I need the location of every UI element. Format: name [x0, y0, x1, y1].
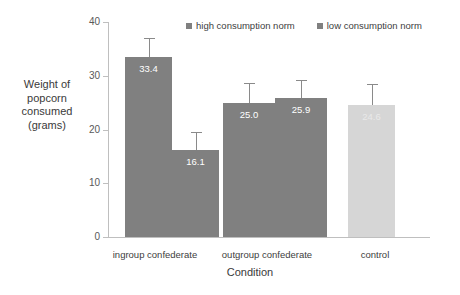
- bar: 25.9: [275, 98, 327, 237]
- bar-value-label: 25.0: [223, 109, 275, 120]
- bar-fill: [223, 103, 275, 237]
- bar: 25.0: [223, 103, 275, 237]
- bar: 24.6: [348, 105, 395, 237]
- x-axis-title: Condition: [0, 266, 460, 278]
- plot-area: 33.416.125.025.924.6: [108, 22, 430, 237]
- x-tick-label-ingroup-confederate: ingroup confederate: [100, 249, 210, 260]
- error-bar-stem: [301, 80, 302, 98]
- x-axis-line: [108, 237, 430, 238]
- bar-fill: [348, 105, 395, 237]
- y-tick-label-40: 40: [74, 17, 100, 27]
- bar: 16.1: [172, 150, 219, 237]
- error-bar-cap: [296, 80, 307, 81]
- bar-value-label: 33.4: [125, 63, 172, 74]
- bar-fill: [125, 57, 172, 237]
- x-tick-label-outgroup-confederate: outgroup confederate: [208, 249, 326, 260]
- bar-value-label: 16.1: [172, 156, 219, 167]
- bar-value-label: 25.9: [275, 104, 327, 115]
- y-axis-title-line: popcorn: [8, 92, 86, 106]
- y-tick-label-20: 20: [74, 125, 100, 135]
- bar-value-label: 24.6: [348, 111, 395, 122]
- error-bar-cap: [367, 84, 378, 85]
- error-bar-stem: [149, 38, 150, 58]
- x-tick-label-control: control: [330, 249, 420, 260]
- error-bar-cap: [191, 132, 202, 133]
- bar: 33.4: [125, 57, 172, 237]
- error-bar-cap: [244, 83, 255, 84]
- bar-fill: [275, 98, 327, 237]
- error-bar-stem: [196, 132, 197, 151]
- error-bar-stem: [372, 84, 373, 105]
- y-tick-label-0: 0: [74, 232, 100, 242]
- y-tick-label-30: 30: [74, 71, 100, 81]
- y-tick-label-10: 10: [74, 178, 100, 188]
- error-bar-stem: [249, 83, 250, 102]
- y-tick-mark-0: [103, 237, 108, 238]
- bar-chart: high consumption norm low consumption no…: [0, 0, 460, 295]
- y-axis-title-line: consumed: [8, 105, 86, 119]
- error-bar-cap: [144, 38, 155, 39]
